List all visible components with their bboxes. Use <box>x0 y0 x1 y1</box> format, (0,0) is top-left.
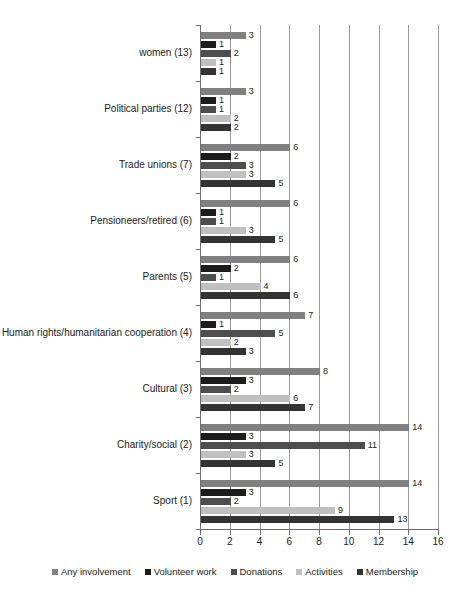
x-tick <box>438 530 439 535</box>
bar-value-label: 1 <box>219 320 224 329</box>
bar <box>201 180 275 187</box>
bar-value-label: 3 <box>249 347 254 356</box>
bar-group: 31211 <box>200 25 438 81</box>
bar-value-label: 6 <box>293 143 298 152</box>
bar-value-label: 7 <box>308 311 313 320</box>
x-tick-label: 0 <box>185 536 215 548</box>
horizontal-grouped-bar-chart: 1432913143113583267715236214661135623353… <box>0 0 470 598</box>
bar <box>201 153 231 160</box>
bar-value-label: 1 <box>219 273 224 282</box>
bar-value-label: 3 <box>249 376 254 385</box>
category-label: Cultural (3) <box>0 383 192 395</box>
y-tick <box>196 361 200 362</box>
x-tick-label: 4 <box>245 536 275 548</box>
bar-value-label: 13 <box>397 515 407 524</box>
bar-group: 31122 <box>200 81 438 137</box>
bar <box>201 200 290 207</box>
bar-value-label: 1 <box>219 67 224 76</box>
bar-value-label: 3 <box>249 488 254 497</box>
bar <box>201 386 231 393</box>
bar <box>201 256 290 263</box>
bar <box>201 106 216 113</box>
bar-value-label: 6 <box>293 255 298 264</box>
legend-swatch-icon <box>231 569 237 575</box>
bar <box>201 265 231 272</box>
bar-value-label: 6 <box>293 291 298 300</box>
legend-label: Any involvement <box>61 566 131 577</box>
bar-value-label: 7 <box>308 403 313 412</box>
legend-swatch-icon <box>145 569 151 575</box>
bar-value-label: 2 <box>234 338 239 347</box>
bar-group: 62146 <box>200 249 438 305</box>
bar <box>201 236 275 243</box>
x-tick-label: 16 <box>423 536 453 548</box>
category-label: Human rights/humanitarian cooperation (4… <box>0 327 192 339</box>
category-label: Political parties (12) <box>0 103 192 115</box>
bar-value-label: 2 <box>234 264 239 273</box>
x-tick <box>349 530 350 535</box>
bar-value-label: 3 <box>249 170 254 179</box>
bar-value-label: 2 <box>234 497 239 506</box>
bar-value-label: 3 <box>249 31 254 40</box>
bar-value-label: 2 <box>234 123 239 132</box>
y-tick <box>196 305 200 306</box>
x-tick <box>408 530 409 535</box>
category-label: Pensioneers/retired (6) <box>0 215 192 227</box>
category-label: Charity/social (2) <box>0 439 192 451</box>
legend-label: Volunteer work <box>154 566 217 577</box>
bar-value-label: 1 <box>219 40 224 49</box>
legend-swatch-icon <box>296 569 302 575</box>
gridline <box>438 25 439 529</box>
bar-value-label: 3 <box>249 226 254 235</box>
bar-value-label: 1 <box>219 217 224 226</box>
x-tick <box>260 530 261 535</box>
bar <box>201 171 246 178</box>
bar-group: 61135 <box>200 193 438 249</box>
bar-group: 1431135 <box>200 417 438 473</box>
bar <box>201 144 290 151</box>
x-tick-label: 12 <box>364 536 394 548</box>
category-label: Sport (1) <box>0 495 192 507</box>
bar-value-label: 1 <box>219 105 224 114</box>
x-tick <box>379 530 380 535</box>
x-tick-label: 6 <box>274 536 304 548</box>
y-tick <box>196 137 200 138</box>
bar-value-label: 5 <box>278 329 283 338</box>
bar <box>201 395 290 402</box>
bar <box>201 227 246 234</box>
bar <box>201 368 320 375</box>
bar <box>201 283 261 290</box>
x-tick-label: 8 <box>304 536 334 548</box>
bar-value-label: 6 <box>293 199 298 208</box>
bar <box>201 32 246 39</box>
bar <box>201 489 246 496</box>
bar <box>201 88 246 95</box>
bar <box>201 433 246 440</box>
bar <box>201 507 335 514</box>
bar <box>201 480 409 487</box>
bar <box>201 115 231 122</box>
bar <box>201 274 216 281</box>
bar <box>201 451 246 458</box>
bar <box>201 209 216 216</box>
bar-group: 83267 <box>200 361 438 417</box>
bar <box>201 377 246 384</box>
y-tick <box>196 417 200 418</box>
bar-value-label: 8 <box>323 367 328 376</box>
plot-area: 1432913143113583267715236214661135623353… <box>200 25 438 529</box>
bar-value-label: 11 <box>368 441 377 450</box>
x-tick-label: 10 <box>334 536 364 548</box>
bar-value-label: 2 <box>234 49 239 58</box>
category-label: Parents (5) <box>0 271 192 283</box>
bar <box>201 59 216 66</box>
bar <box>201 50 231 57</box>
bar-group: 1432913 <box>200 473 438 529</box>
category-label: Trade unions (7) <box>0 159 192 171</box>
bar <box>201 424 409 431</box>
legend-swatch-icon <box>52 569 58 575</box>
bar-value-label: 2 <box>234 385 239 394</box>
legend-swatch-icon <box>357 569 363 575</box>
bar <box>201 348 246 355</box>
bar <box>201 218 216 225</box>
bar-value-label: 4 <box>264 282 269 291</box>
